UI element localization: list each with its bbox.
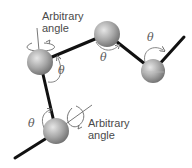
arbitrary-angle-label-top-line1: Arbitrary: [42, 10, 84, 22]
arbitrary-angle-label-bottom-line1: Arbitrary: [88, 117, 130, 129]
atom-lower-left: [43, 118, 69, 144]
arbitrary-angle-label-bottom-line2: angle: [88, 129, 115, 141]
theta-label-3: θ: [147, 31, 154, 44]
atom-top: [94, 21, 120, 47]
theta-label-4: θ: [28, 117, 35, 130]
rotation-arrow-bottom-icon: [67, 106, 83, 129]
theta-label-1: θ: [58, 64, 65, 77]
bond-lower-to-end: [15, 136, 50, 158]
atom-right: [141, 59, 165, 83]
theta-label-2: θ: [100, 51, 107, 64]
atom-upper-left: [27, 49, 53, 75]
arbitrary-angle-label-top-line2: angle: [42, 22, 69, 34]
polymer-chain-diagram: Arbitrary angle Arbitrary angle θ θ θ θ: [0, 0, 192, 168]
